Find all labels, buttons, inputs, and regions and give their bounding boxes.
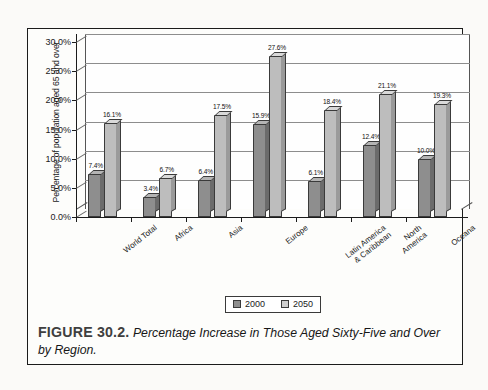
bar-value-label: 12.4%	[362, 133, 380, 140]
bar-value-label: 6.7%	[159, 166, 173, 173]
category-label: World Total	[122, 224, 159, 255]
grid-line	[85, 34, 470, 35]
bar-2000-latin-america---caribbean: 6.1%	[308, 181, 321, 217]
bar-2050-asia: 17.5%	[214, 115, 227, 217]
bar-value-label: 18.4%	[323, 98, 341, 105]
y-axis-tick-label: 30.0%	[45, 37, 71, 47]
bar-value-label: 7.4%	[88, 162, 102, 169]
bar-side-face	[391, 91, 396, 212]
y-axis-line	[76, 34, 77, 217]
bar-value-label: 19.3%	[433, 92, 451, 99]
y-axis-tick-label: 15.0%	[45, 125, 71, 135]
bar-value-label: 6.4%	[198, 168, 212, 175]
bar-2050-europe: 27.6%	[269, 56, 282, 217]
legend-label-2050: 2050	[293, 299, 313, 309]
x-axis-tick-mark	[186, 217, 187, 222]
y-axis-tick-label: 5.0%	[50, 183, 71, 193]
bar-2000-asia: 6.4%	[198, 180, 211, 217]
bar-value-label: 21.1%	[378, 82, 396, 89]
x-axis-line	[76, 217, 468, 218]
category-label: Asia	[227, 224, 245, 240]
bar-side-face	[226, 112, 231, 212]
y-axis-tick-label: 25.0%	[45, 66, 71, 76]
bar-side-face	[336, 107, 341, 212]
figure-page: Percentage of population aged 65 and ove…	[0, 0, 488, 390]
bar-side-face	[281, 53, 286, 212]
legend-label-2000: 2000	[245, 299, 265, 309]
x-axis-tick-mark	[296, 217, 297, 222]
x-axis-tick-mark	[76, 217, 77, 222]
bar-2050-north-america: 21.1%	[379, 94, 392, 217]
bar-2000-africa: 3.4%	[143, 197, 156, 217]
figure-frame: Percentage of population aged 65 and ove…	[27, 28, 463, 365]
y-axis-tick-label: 0.0%	[50, 212, 71, 222]
bar-value-label: 6.1%	[308, 169, 322, 176]
bar-side-face	[116, 120, 121, 212]
bar-value-label: 27.6%	[268, 44, 286, 51]
y-axis-tick-label: 20.0%	[45, 95, 71, 105]
plot-area: 0.0%5.0%10.0%15.0%20.0%25.0%30.0% 7.4%16…	[76, 42, 461, 217]
bar-2000-europe: 15.9%	[253, 124, 266, 217]
bar-value-label: 15.9%	[252, 112, 270, 119]
bar-2000-oceana: 10.0%	[418, 159, 431, 217]
x-axis-tick-mark	[351, 217, 352, 222]
category-label: Africa	[173, 224, 194, 243]
bar-2050-oceana: 19.3%	[434, 104, 447, 217]
category-label: Latin America & Caribbean	[344, 224, 393, 267]
bar-value-label: 10.0%	[417, 147, 435, 154]
category-label: Europe	[284, 224, 310, 247]
legend-swatch-icon-2000	[233, 300, 241, 308]
bar-2050-world-total: 16.1%	[104, 123, 117, 217]
bar-value-label: 17.5%	[213, 103, 231, 110]
chart-region: Percentage of population aged 65 and ove…	[28, 29, 464, 311]
y-axis-tick-label: 10.0%	[45, 154, 71, 164]
bar-2000-world-total: 7.4%	[88, 174, 101, 217]
legend-item-2000: 2000	[233, 299, 265, 309]
figure-caption: FIGURE 30.2. Percentage Increase in Thos…	[38, 322, 453, 360]
figure-caption-label: FIGURE 30.2.	[38, 324, 130, 340]
bar-value-label: 16.1%	[103, 111, 121, 118]
x-axis-tick-mark	[241, 217, 242, 222]
x-axis-tick-mark	[131, 217, 132, 222]
bar-2050-latin-america---caribbean: 18.4%	[324, 110, 337, 217]
category-label: North America	[395, 224, 429, 256]
x-axis-tick-mark	[406, 217, 407, 222]
legend-swatch-icon-2050	[281, 300, 289, 308]
legend-item-2050: 2050	[281, 299, 313, 309]
category-label: Oceana	[450, 224, 477, 248]
bar-2000-north-america: 12.4%	[363, 145, 376, 217]
bar-side-face	[171, 175, 176, 212]
bar-value-label: 3.4%	[143, 185, 157, 192]
bar-2050-africa: 6.7%	[159, 178, 172, 217]
bar-side-face	[446, 101, 451, 212]
chart-legend: 2000 2050	[225, 296, 321, 313]
